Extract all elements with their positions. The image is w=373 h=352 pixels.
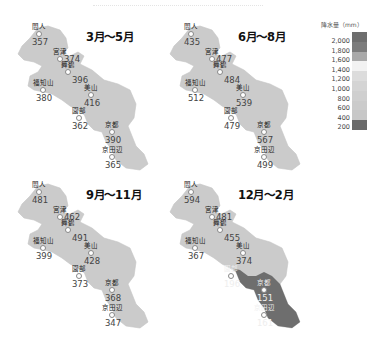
station-value-kyoto: 567: [257, 136, 273, 145]
legend-tick-label: 1,000: [331, 85, 350, 93]
legend-band: [352, 71, 367, 81]
station-name-kyotanabe: 京田辺: [254, 147, 275, 154]
map-panel-spring: 3月〜5月間人357宮津374舞鶴396福知山380美山416園部362京都39…: [8, 14, 168, 179]
station-name-sonobe: 園部: [72, 266, 86, 273]
legend-tick-label: 400: [338, 114, 350, 122]
station-value-taiza: 357: [32, 38, 48, 47]
legend-band: [352, 91, 367, 101]
station-name-maizuru: 舞鶴: [213, 220, 227, 227]
legend-tick-label: 600: [338, 104, 350, 112]
station-marker-icon: [217, 69, 223, 75]
station-name-taiza: 間人: [32, 182, 46, 189]
station-value-kyotanabe: 499: [257, 161, 273, 170]
station-value-taiza: 481: [32, 196, 48, 205]
legend-band: [352, 42, 367, 52]
legend-tick-label: 1,600: [331, 56, 350, 64]
station-value-kyotanabe: 161: [257, 319, 273, 328]
station-value-fukuchiyama: 512: [188, 94, 204, 103]
station-name-taiza: 間人: [184, 24, 198, 31]
station-value-fukuchiyama: 367: [188, 252, 204, 261]
station-value-miyama: 428: [84, 257, 100, 266]
station-name-maizuru: 舞鶴: [213, 62, 227, 69]
station-name-kyoto: 京都: [257, 122, 271, 129]
top-dotted-divider: [93, 5, 263, 6]
legend-tick-label: 1,200: [331, 75, 350, 83]
precipitation-legend: 降水量（mm） 2,0001,8001,6001,4001,2001,00080…: [318, 20, 373, 135]
legend-band: [352, 61, 367, 71]
legend-tick-label: 1,400: [331, 66, 350, 74]
station-name-miyama: 美山: [236, 243, 250, 250]
legend-color-bar: [352, 32, 367, 130]
station-value-kyoto: 368: [105, 294, 121, 303]
station-name-fukuchiyama: 福知山: [33, 238, 54, 245]
station-value-kyoto: 151: [257, 294, 273, 303]
station-name-taiza: 間人: [32, 24, 46, 31]
legend-band: [352, 110, 367, 120]
station-name-fukuchiyama: 福知山: [185, 238, 206, 245]
map-panel-winter: 12月〜2月間人594宮津481舞鶴455福知山367美山374園部196京都1…: [160, 172, 320, 337]
legend-band: [352, 81, 367, 91]
station-value-sonobe: 373: [72, 280, 88, 289]
season-title: 6月〜8月: [238, 28, 286, 44]
station-value-sonobe: 362: [72, 122, 88, 131]
station-name-miyama: 美山: [236, 85, 250, 92]
station-value-miyama: 539: [236, 99, 252, 108]
legend-band: [352, 101, 367, 111]
station-name-miyama: 美山: [84, 85, 98, 92]
station-value-sonobe: 196: [224, 280, 240, 289]
station-marker-icon: [217, 227, 223, 233]
map-panel-autumn: 9月〜11月間人481宮津462舞鶴491福知山399美山428園部373京都3…: [8, 172, 168, 337]
season-title: 12月〜2月: [238, 186, 293, 202]
station-value-kyotanabe: 365: [105, 161, 121, 170]
legend-title: 降水量（mm）: [321, 20, 363, 29]
station-name-maizuru: 舞鶴: [61, 62, 75, 69]
legend-tick-label: 2,000: [331, 37, 350, 45]
station-marker-icon: [65, 69, 71, 75]
legend-tick-label: 1,800: [331, 47, 350, 55]
station-name-kyoto: 京都: [105, 122, 119, 129]
station-name-maizuru: 舞鶴: [61, 220, 75, 227]
station-name-kyoto: 京都: [105, 280, 119, 287]
station-value-kyoto: 390: [105, 136, 121, 145]
station-value-taiza: 435: [184, 38, 200, 47]
map-panel-summer: 6月〜8月間人435宮津477舞鶴484福知山512美山539園部479京都56…: [160, 14, 320, 179]
legend-band: [352, 32, 367, 42]
station-value-taiza: 594: [184, 196, 200, 205]
legend-band: [352, 52, 367, 62]
station-name-kyotanabe: 京田辺: [254, 305, 275, 312]
station-name-sonobe: 園部: [224, 108, 238, 115]
station-value-sonobe: 479: [224, 122, 240, 131]
station-value-kyotanabe: 347: [105, 319, 121, 328]
station-name-sonobe: 園部: [224, 266, 238, 273]
station-value-fukuchiyama: 380: [36, 94, 52, 103]
station-name-taiza: 間人: [184, 182, 198, 189]
station-name-miyama: 美山: [84, 243, 98, 250]
station-value-fukuchiyama: 399: [36, 252, 52, 261]
station-value-miyama: 374: [236, 257, 252, 266]
station-name-fukuchiyama: 福知山: [33, 80, 54, 87]
station-name-fukuchiyama: 福知山: [185, 80, 206, 87]
station-name-kyotanabe: 京田辺: [102, 147, 123, 154]
legend-tick-label: 800: [338, 95, 350, 103]
station-name-kyoto: 京都: [257, 280, 271, 287]
season-title: 9月〜11月: [86, 186, 141, 202]
season-title: 3月〜5月: [86, 28, 134, 44]
legend-band: [352, 120, 367, 130]
station-value-miyama: 416: [84, 99, 100, 108]
legend-tick-label: 200: [338, 123, 350, 131]
station-name-kyotanabe: 京田辺: [102, 305, 123, 312]
station-marker-icon: [65, 227, 71, 233]
station-name-sonobe: 園部: [72, 108, 86, 115]
